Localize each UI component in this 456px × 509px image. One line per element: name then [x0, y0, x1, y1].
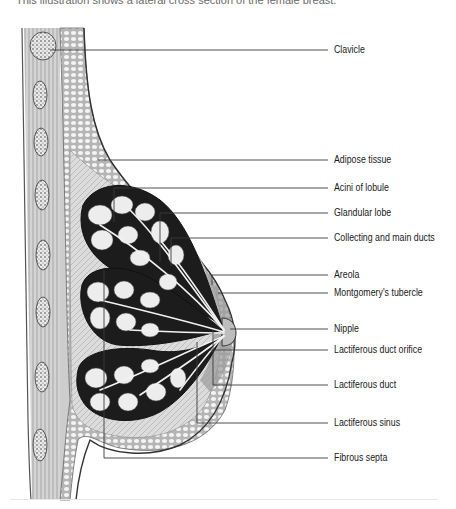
label-montgomerys-tubercle: Montgomery's tubercle [334, 287, 423, 299]
label-clavicle: Clavicle [334, 44, 365, 56]
label-acini-of-lobule: Acini of lobule [334, 182, 389, 194]
breast-cross-section-illustration [0, 0, 456, 509]
label-collecting-and-main-ducts: Collecting and main ducts [334, 232, 435, 244]
label-areola: Areola [334, 269, 359, 281]
label-lactiferous-sinus: Lactiferous sinus [334, 417, 400, 429]
label-fibrous-septa: Fibrous septa [334, 452, 387, 464]
label-nipple: Nipple [334, 323, 359, 335]
label-adipose-tissue: Adipose tissue [334, 154, 391, 166]
leader-areola [212, 275, 328, 285]
label-glandular-lobe: Glandular lobe [334, 207, 391, 219]
label-lactiferous-duct: Lactiferous duct [334, 379, 396, 391]
divider [10, 499, 438, 500]
label-lactiferous-duct-orifice: Lactiferous duct orifice [334, 344, 422, 356]
